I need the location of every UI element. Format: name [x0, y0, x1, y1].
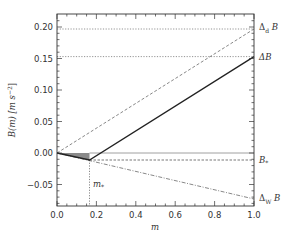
x-ticks: [57, 14, 254, 206]
annotation-m-star: m*: [93, 179, 104, 190]
plot-area: [57, 29, 254, 206]
x-tick-label: 0.0: [50, 210, 64, 220]
x-tick-label: 1.0: [247, 210, 261, 220]
svg-text:B(m) [m s−2]: B(m) [m s−2]: [6, 83, 17, 138]
y-axis-label-end: ]: [7, 83, 17, 86]
annotation-delta-d-b: Δd B: [259, 22, 278, 34]
y-tick-label: 0.20: [34, 22, 53, 32]
y-tick-label: 0.15: [34, 54, 53, 64]
plot-frame: [57, 14, 254, 206]
annotation-delta-w-b: ΔW B: [259, 193, 280, 205]
delta-d-slope-line: [57, 29, 254, 153]
y-tick-label: 0.05: [34, 117, 53, 127]
x-tick-label: 0.4: [129, 210, 143, 220]
y-tick-label: 0.10: [34, 85, 53, 95]
y-tick-labels: −0.05 0.00 0.05 0.10 0.15 0.20: [27, 22, 53, 190]
annotation-delta-b: ΔB: [258, 52, 271, 62]
x-axis-label: m: [151, 222, 159, 232]
chart: 0.0 0.2 0.4 0.6 0.8 1.0 −0.05 0.00 0.05 …: [0, 0, 292, 240]
x-tick-label: 0.8: [208, 210, 222, 220]
y-axis-label-main: B(m) [m s: [7, 94, 17, 138]
y-ticks: [57, 21, 254, 204]
y-axis-label-sup: −2: [6, 86, 13, 95]
x-tick-labels: 0.0 0.2 0.4 0.6 0.8 1.0: [50, 210, 261, 220]
annotation-b-star: B*: [258, 155, 268, 166]
y-axis-label: B(m) [m s−2]: [6, 83, 17, 138]
x-tick-label: 0.2: [90, 210, 104, 220]
y-tick-label: −0.05: [27, 180, 53, 190]
y-tick-label: 0.00: [34, 148, 53, 158]
x-tick-label: 0.6: [168, 210, 182, 220]
b-of-m-line: [57, 57, 254, 160]
